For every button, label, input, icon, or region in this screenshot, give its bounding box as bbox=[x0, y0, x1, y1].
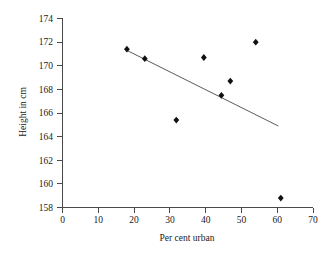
y-tick-label: 164 bbox=[39, 132, 54, 142]
data-point bbox=[253, 39, 259, 46]
x-axis-tick-labels: 0 10 20 30 40 50 60 70 bbox=[60, 215, 318, 225]
x-tick-label: 50 bbox=[237, 215, 247, 225]
x-tick-label: 10 bbox=[94, 215, 104, 225]
regression-trend-line bbox=[127, 50, 278, 126]
y-axis-tick-labels: 158 160 162 164 166 168 170 172 174 bbox=[39, 14, 54, 213]
scatter-plot: 158 160 162 164 166 168 170 172 174 0 10… bbox=[0, 0, 336, 253]
x-tick-label: 60 bbox=[273, 215, 283, 225]
data-point bbox=[142, 55, 148, 62]
data-point bbox=[173, 117, 179, 124]
chart-figure: 158 160 162 164 166 168 170 172 174 0 10… bbox=[0, 0, 336, 253]
y-tick-label: 162 bbox=[39, 156, 54, 166]
x-axis-ticks bbox=[63, 208, 314, 214]
y-tick-label: 168 bbox=[39, 85, 54, 95]
y-tick-label: 172 bbox=[39, 37, 54, 47]
y-tick-label: 160 bbox=[39, 179, 54, 189]
y-tick-label: 174 bbox=[39, 14, 54, 24]
data-point bbox=[201, 54, 207, 61]
y-tick-label: 170 bbox=[39, 61, 54, 71]
x-tick-label: 0 bbox=[60, 215, 65, 225]
y-axis-ticks bbox=[57, 19, 63, 208]
y-axis-title: Height in cm bbox=[18, 87, 28, 137]
y-tick-label: 158 bbox=[39, 203, 54, 213]
x-axis-title: Per cent urban bbox=[160, 233, 215, 243]
y-tick-label: 166 bbox=[39, 108, 54, 118]
data-point bbox=[218, 92, 224, 99]
x-tick-label: 30 bbox=[165, 215, 175, 225]
x-tick-label: 70 bbox=[308, 215, 318, 225]
data-point bbox=[278, 195, 284, 202]
data-point-group bbox=[124, 39, 284, 202]
x-tick-label: 40 bbox=[201, 215, 211, 225]
x-tick-label: 20 bbox=[129, 215, 139, 225]
data-point bbox=[227, 78, 233, 85]
